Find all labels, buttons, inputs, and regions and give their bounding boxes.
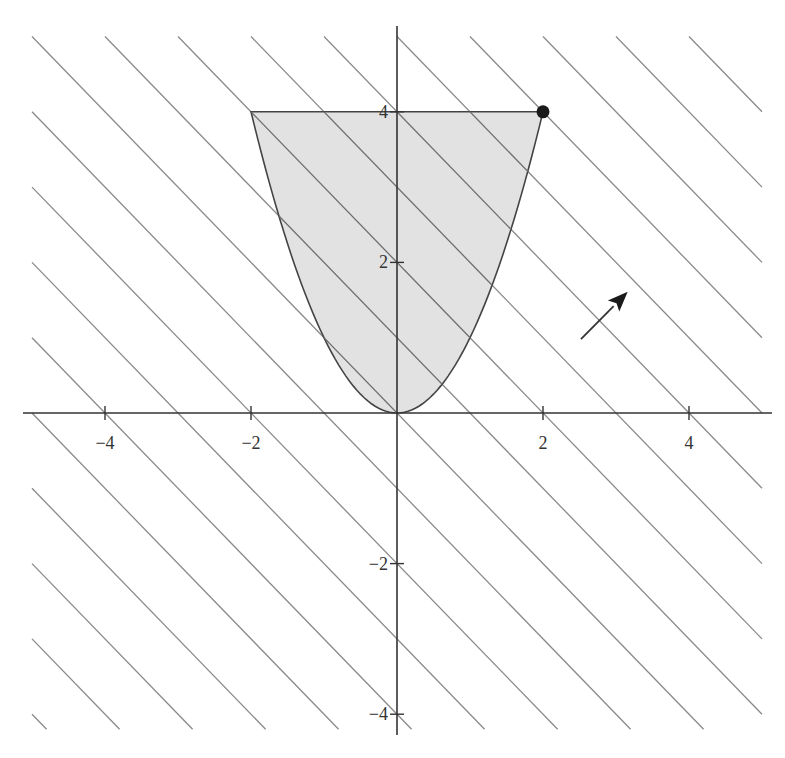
diagram-figure: −4−224 −4−224	[0, 0, 785, 758]
level-line	[689, 37, 762, 112]
y-tick-label: 4	[379, 102, 388, 122]
level-line	[32, 488, 266, 729]
x-tick-label: −4	[95, 433, 114, 453]
level-line	[32, 714, 47, 729]
x-tick-label: −2	[241, 433, 260, 453]
level-line	[32, 564, 193, 730]
optimal-point	[537, 105, 550, 118]
y-tick-label: −4	[369, 704, 388, 724]
arrow-shaft	[581, 306, 614, 339]
level-line	[543, 37, 762, 263]
y-tick-label: −2	[369, 554, 388, 574]
level-line	[616, 37, 762, 188]
x-tick-label: 4	[685, 433, 694, 453]
x-tick-label: 2	[539, 433, 548, 453]
y-tick-label: 2	[379, 252, 388, 272]
gradient-arrow-icon	[581, 292, 628, 339]
level-line	[32, 338, 412, 730]
level-line	[32, 639, 120, 729]
level-line	[32, 413, 339, 729]
